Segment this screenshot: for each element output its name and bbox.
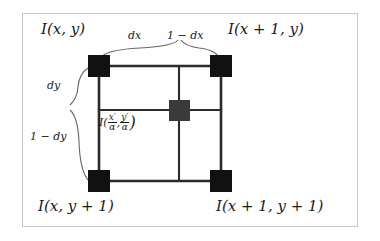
corner-node-bottom-left xyxy=(88,170,110,192)
label-dy: dy xyxy=(47,80,60,91)
center-fraction-x: x′α xyxy=(108,113,117,133)
brace-dy xyxy=(70,68,88,105)
corner-node-top-right xyxy=(210,55,232,77)
label-corner-bottom-left: I(x, y + 1) xyxy=(38,199,114,214)
horizontal-braces xyxy=(101,40,219,58)
corner-node-bottom-right xyxy=(210,170,232,192)
label-one-minus-dy: 1 − dy xyxy=(30,131,66,142)
vertical-braces xyxy=(70,68,88,180)
center-label-prefix: I( xyxy=(99,116,108,129)
center-fraction-x-denominator: α xyxy=(108,122,117,132)
label-corner-top-left: I(x, y) xyxy=(41,22,85,37)
label-corner-top-right: I(x + 1, y) xyxy=(228,22,304,37)
center-fraction-x-numerator: x′ xyxy=(108,113,117,122)
interior-sample-node xyxy=(169,100,190,121)
label-dx: dx xyxy=(128,30,141,41)
brace-1-minus-dy xyxy=(70,110,88,180)
label-interior-sample: I(x′α,y′α) xyxy=(99,113,136,133)
brace-dx xyxy=(101,40,178,58)
corner-node-top-left xyxy=(88,55,110,77)
label-corner-bottom-right: I(x + 1, y + 1) xyxy=(216,199,323,214)
figure-page: I(x, y) I(x + 1, y) I(x, y + 1) I(x + 1,… xyxy=(0,0,380,241)
label-one-minus-dx: 1 − dx xyxy=(167,30,203,41)
center-label-suffix: ) xyxy=(129,113,135,132)
